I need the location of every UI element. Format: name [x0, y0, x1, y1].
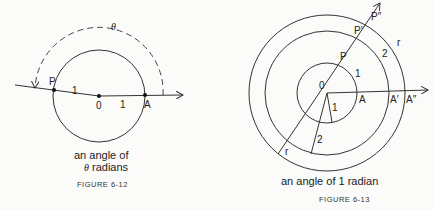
- label-p-double-prime: P″: [371, 11, 382, 22]
- point-p: [52, 88, 56, 92]
- label-p-prime: P′: [354, 25, 363, 36]
- ray-op: [15, 85, 99, 96]
- label-radius-1: 1: [332, 102, 338, 113]
- label-p: P: [49, 76, 56, 87]
- caption-line-1: an angle of: [74, 149, 129, 161]
- label-o: 0: [96, 100, 102, 111]
- label-o: 0: [319, 80, 325, 91]
- label-radius-r: r: [285, 146, 289, 157]
- label-radius-oa: 1: [120, 99, 126, 110]
- figure-6-12: P 0 A 1 1 θ an angle of θ radians FIGURE…: [15, 21, 183, 189]
- label-arc-2: 2: [382, 48, 388, 59]
- caption-line-2: θ radians: [84, 161, 129, 173]
- ray-op-extended: [278, 3, 380, 154]
- label-theta: θ: [111, 21, 116, 32]
- label-arc-1: 1: [355, 68, 361, 79]
- caption: an angle of 1 radian: [281, 175, 378, 187]
- figures-canvas: P 0 A 1 1 θ an angle of θ radians FIGURE…: [0, 0, 435, 210]
- label-a-double-prime: A″: [406, 94, 417, 105]
- ray-oa-arrow: [99, 95, 183, 96]
- figure-label: FIGURE 6-12: [77, 180, 128, 189]
- label-a: A: [359, 94, 366, 105]
- point-o: [97, 94, 101, 98]
- label-a-prime: A′: [390, 94, 399, 105]
- figure-label: FIGURE 6-13: [319, 195, 370, 204]
- label-arc-r: r: [397, 37, 401, 48]
- label-radius-op: 1: [72, 85, 78, 96]
- label-p: P: [340, 51, 347, 62]
- label-a: A: [144, 99, 151, 110]
- label-radius-2: 2: [317, 134, 323, 145]
- figure-6-13: 0 P P′ P″ A A′ A″ 1 2 r 1 2 r an angle o…: [249, 3, 428, 204]
- ray-oa-arrow: [327, 90, 428, 93]
- point-a: [143, 93, 147, 97]
